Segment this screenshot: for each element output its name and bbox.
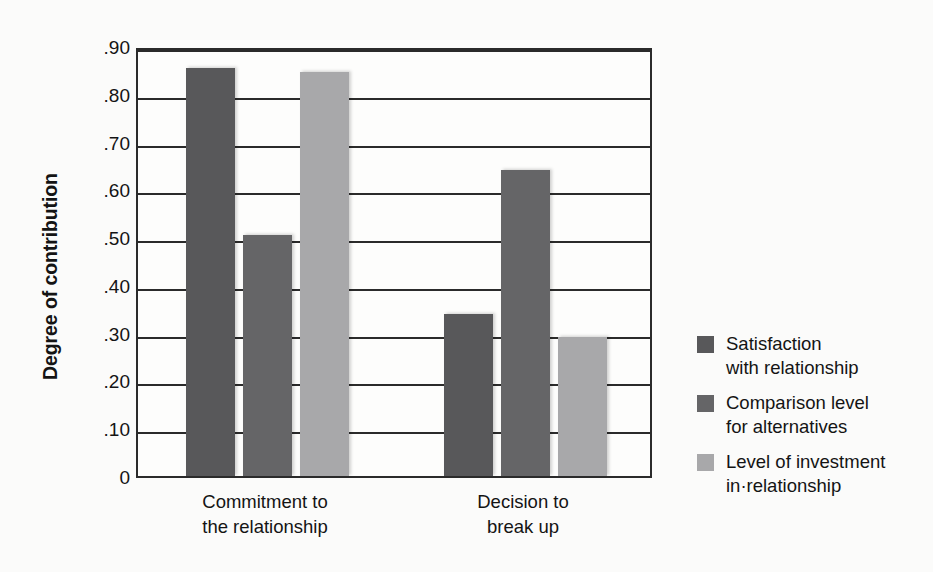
y-axis-tick-label: 0 (119, 467, 130, 489)
y-axis-tick-label: .60 (104, 180, 130, 202)
plot-area (136, 48, 652, 478)
bar (300, 72, 349, 476)
bar (243, 235, 292, 476)
legend-item: Satisfaction with relationship (697, 332, 922, 380)
bar-chart-figure: Degree of contribution 0.10.20.30.40.50.… (0, 0, 933, 572)
y-axis-tick-label: .80 (104, 85, 130, 107)
bars-layer (138, 50, 650, 476)
legend-item-label: Comparison level for alternatives (726, 391, 869, 439)
y-axis-tick-labels: 0.10.20.30.40.50.60.70.80.90 (56, 48, 130, 478)
bar (558, 337, 607, 476)
chart-legend: Satisfaction with relationshipComparison… (697, 332, 922, 509)
legend-swatch-icon (697, 454, 714, 471)
x-axis-category-label: Decision to break up (477, 489, 569, 539)
y-axis-tick-label: .20 (104, 371, 130, 393)
bar (186, 68, 235, 477)
legend-swatch-icon (697, 336, 714, 353)
y-axis-tick-label: .40 (104, 276, 130, 298)
y-axis-tick-label: .50 (104, 228, 130, 250)
legend-item-label: Satisfaction with relationship (726, 332, 859, 380)
x-axis-category-labels: Commitment to the relationshipDecision t… (136, 489, 652, 549)
x-axis-category-label: Commitment to the relationship (202, 489, 327, 539)
y-axis-tick-label: .70 (104, 133, 130, 155)
bar (501, 170, 550, 476)
legend-item-label: Level of investment in·relationship (726, 450, 885, 498)
bar (444, 314, 493, 476)
y-axis-tick-label: .10 (104, 419, 130, 441)
legend-swatch-icon (697, 395, 714, 412)
legend-item: Level of investment in·relationship (697, 450, 922, 498)
y-axis-tick-label: .90 (104, 37, 130, 59)
y-axis-tick-label: .30 (104, 324, 130, 346)
legend-item: Comparison level for alternatives (697, 391, 922, 439)
